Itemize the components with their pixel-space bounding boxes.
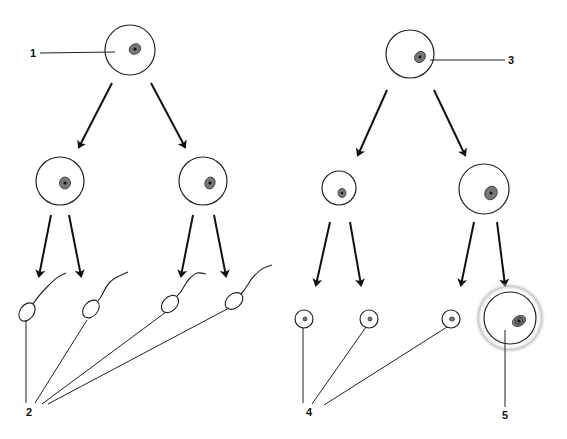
arrow-icon: [39, 215, 51, 276]
ovum: [474, 282, 546, 354]
arrow-icon: [497, 222, 505, 285]
label-4: 4: [306, 406, 313, 418]
leader-line-4: [324, 327, 447, 405]
leader-line-4: [312, 327, 366, 404]
secondary-spermatocyte: [179, 157, 227, 205]
leader-line-2: [42, 312, 166, 404]
arrow-icon: [316, 222, 330, 285]
label-3: 3: [508, 54, 514, 66]
arrow-icon: [461, 222, 474, 285]
sperm-cell: [158, 273, 206, 316]
gametogenesis-diagram: 1 2 3: [0, 0, 567, 439]
label-5: 5: [502, 409, 508, 421]
secondary-oocyte: [459, 164, 509, 214]
arrow-icon: [79, 83, 112, 147]
sperm-cell: [79, 272, 128, 321]
label-2: 2: [26, 406, 32, 418]
polar-body: [360, 310, 378, 328]
sperm-cell: [16, 273, 66, 324]
arrow-icon: [69, 215, 81, 276]
first-polar-body: [322, 171, 356, 205]
polar-body: [442, 310, 460, 328]
arrow-icon: [358, 90, 387, 155]
leader-line-2: [48, 308, 229, 404]
leader-line-1: [40, 52, 115, 53]
arrow-icon: [181, 215, 193, 276]
secondary-spermatocyte: [36, 157, 84, 205]
primary-oocyte: [386, 30, 434, 78]
arrow-icon: [214, 215, 226, 276]
polar-body: [295, 310, 313, 328]
primary-spermatocyte: [105, 25, 155, 75]
arrow-icon: [151, 83, 185, 147]
label-1: 1: [30, 47, 36, 59]
sperm-cell: [222, 265, 272, 313]
arrow-icon: [350, 222, 361, 285]
leader-line-2: [35, 320, 87, 403]
arrow-icon: [434, 90, 465, 155]
